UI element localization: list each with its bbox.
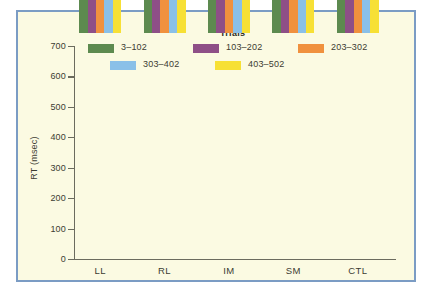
legend-swatch-series-1	[88, 44, 114, 53]
bar-im-series-2	[216, 0, 224, 33]
bar-im-series-4	[233, 0, 241, 33]
bar-sm-series-4	[298, 0, 306, 33]
bar-group-im	[208, 0, 250, 33]
bar-group-ctl	[337, 0, 379, 33]
bar-rl-series-1	[144, 0, 152, 33]
bar-rl-series-3	[160, 0, 168, 33]
legend-swatch-series-2	[193, 44, 219, 53]
legend-swatch-series-4	[110, 61, 136, 70]
legend-label-series-5: 403–502	[248, 59, 284, 69]
y-axis-tick	[68, 198, 74, 199]
y-axis-tick	[68, 107, 74, 108]
bar-sm-series-3	[289, 0, 297, 33]
y-axis-tick-label: 700	[32, 41, 66, 51]
y-axis-tick	[68, 168, 74, 169]
bar-ctl-series-5	[370, 0, 378, 33]
y-axis-line	[74, 46, 75, 260]
y-axis-tick	[68, 46, 74, 47]
legend-label-series-2: 103–202	[226, 42, 262, 52]
bar-sm-series-1	[272, 0, 280, 33]
y-axis-tick-label: 0	[32, 254, 66, 264]
bar-group-ll	[79, 0, 121, 33]
x-axis-label-ctl: CTL	[317, 265, 399, 276]
legend-row-2: 303–402 403–502	[88, 59, 388, 73]
bar-sm-series-5	[306, 0, 314, 33]
bar-im-series-5	[242, 0, 250, 33]
y-axis-tick	[68, 137, 74, 138]
y-axis-tick	[68, 259, 74, 260]
legend-swatch-series-3	[298, 44, 324, 53]
bar-ll-series-4	[104, 0, 112, 33]
x-axis-line	[74, 259, 396, 260]
bar-ll-series-2	[88, 0, 96, 33]
bar-rl-series-5	[177, 0, 185, 33]
bar-group-sm	[272, 0, 314, 33]
y-axis-tick-label: 100	[32, 224, 66, 234]
bar-rl-series-2	[152, 0, 160, 33]
legend-swatch-series-5	[215, 61, 241, 70]
chart-plot-area: Trials 3–102 103–202 203–302 303	[18, 12, 414, 280]
bar-ll-series-3	[96, 0, 104, 33]
y-axis-tick-label: 600	[32, 71, 66, 81]
bar-ll-series-5	[113, 0, 121, 33]
legend-label-series-3: 203–302	[331, 42, 367, 52]
bar-rl-series-4	[169, 0, 177, 33]
bar-ll-series-1	[79, 0, 87, 33]
bar-ctl-series-2	[345, 0, 353, 33]
bar-ctl-series-1	[337, 0, 345, 33]
y-axis-tick	[68, 76, 74, 77]
y-axis-tick-label: 500	[32, 102, 66, 112]
bar-sm-series-2	[281, 0, 289, 33]
y-axis-title: RT (msec)	[29, 113, 39, 203]
figure-frame: Trials 3–102 103–202 203–302 303	[16, 10, 416, 282]
bar-ctl-series-4	[362, 0, 370, 33]
bar-im-series-1	[208, 0, 216, 33]
legend-label-series-4: 303–402	[143, 59, 179, 69]
bar-group-rl	[144, 0, 186, 33]
legend-label-series-1: 3–102	[121, 42, 147, 52]
legend-row-1: 3–102 103–202 203–302	[88, 42, 388, 56]
y-axis-tick	[68, 229, 74, 230]
bar-im-series-3	[225, 0, 233, 33]
bar-ctl-series-3	[354, 0, 362, 33]
